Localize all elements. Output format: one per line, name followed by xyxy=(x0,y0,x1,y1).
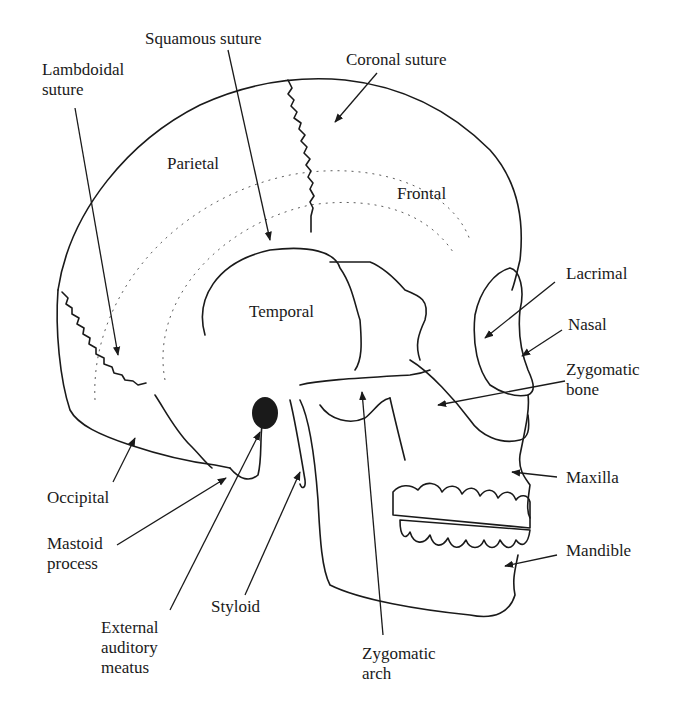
label-styloid: Styloid xyxy=(211,597,260,617)
leader-squamous-suture xyxy=(228,50,270,240)
label-eam-line2: auditory xyxy=(101,638,159,658)
leader-styloid xyxy=(245,472,300,595)
label-external-auditory-meatus: External auditory meatus xyxy=(101,618,159,678)
label-zygomatic-bone-line1: Zygomatic xyxy=(566,360,640,380)
label-mastoid-process: Mastoid process xyxy=(47,534,103,574)
label-lambdoidal-line2: suture xyxy=(42,80,124,100)
leader-zygomatic-bone xyxy=(438,381,565,405)
label-eam-line3: meatus xyxy=(101,658,159,678)
label-nasal: Nasal xyxy=(568,315,607,335)
leader-mandible xyxy=(505,555,557,566)
region-temporal: Temporal xyxy=(249,302,314,322)
label-zygomatic-arch: Zygomatic arch xyxy=(362,644,436,684)
label-mastoid-line2: process xyxy=(47,554,103,574)
zygomatic-bone-outline xyxy=(410,360,529,441)
label-mandible: Mandible xyxy=(566,541,631,561)
leader-external-auditory-meatus xyxy=(170,432,260,610)
label-coronal-suture: Coronal suture xyxy=(346,50,447,70)
label-lambdoidal-line1: Lambdoidal xyxy=(42,60,124,80)
label-squamous-suture: Squamous suture xyxy=(145,29,262,49)
region-frontal: Frontal xyxy=(397,184,446,204)
orbit-outline xyxy=(474,268,533,396)
leader-nasal xyxy=(522,330,562,356)
mastoid-outline xyxy=(230,425,262,479)
superior-temporal-line xyxy=(95,171,470,400)
region-parietal: Parietal xyxy=(167,154,219,174)
label-zygomatic-bone-line2: bone xyxy=(566,380,640,400)
cranium-outline xyxy=(58,79,521,290)
occipital-outline xyxy=(57,290,230,468)
leader-maxilla xyxy=(512,472,557,477)
label-occipital: Occipital xyxy=(47,488,109,508)
leader-lambdoidal-suture xyxy=(75,108,118,355)
lower-teeth xyxy=(400,520,530,548)
coronal-suture-line xyxy=(288,80,314,232)
label-zygomatic-arch-line1: Zygomatic xyxy=(362,644,436,664)
label-maxilla: Maxilla xyxy=(566,468,619,488)
label-lacrimal: Lacrimal xyxy=(566,264,627,284)
zygomatic-arch-outline xyxy=(300,370,430,385)
label-mastoid-line1: Mastoid xyxy=(47,534,103,554)
lambdoidal-suture-line xyxy=(62,292,146,385)
occipitomastoid-line xyxy=(155,395,212,468)
label-eam-line1: External xyxy=(101,618,159,638)
mandible-outline xyxy=(300,400,518,616)
ramus-front xyxy=(390,398,405,460)
external-auditory-meatus-hole xyxy=(252,397,278,429)
arch-lower-outline xyxy=(320,398,390,421)
leader-occipital xyxy=(113,438,135,482)
label-lambdoidal-suture: Lambdoidal suture xyxy=(42,60,124,100)
leader-mastoid-process xyxy=(117,478,226,545)
inferior-temporal-line xyxy=(163,202,455,380)
styloid-outline xyxy=(290,400,305,487)
label-zygomatic-arch-line2: arch xyxy=(362,664,436,684)
label-zygomatic-bone: Zygomatic bone xyxy=(566,360,640,400)
